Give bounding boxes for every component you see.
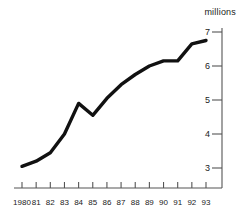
data-series-group [22,41,206,167]
x-axis-tick-label: 87 [117,198,126,207]
y-axis-tick-label: 4 [196,129,210,139]
x-axis-tick-label: 82 [46,198,55,207]
x-axis-tick-label: 91 [173,198,182,207]
y-axis-tick-label: 7 [196,27,210,37]
x-axis-tick-label: 90 [159,198,168,207]
x-axis-tick-label: 81 [32,198,41,207]
data-line [22,41,206,167]
x-axis-tick-label: 88 [131,198,140,207]
y-axis-tick-label: 5 [196,95,210,105]
x-axis-tick-label: 93 [202,198,211,207]
chart-container: millions 34567 1980818283848586878889909… [0,0,242,222]
x-axis-tick-label: 92 [187,198,196,207]
x-axis-tick-label: 1980 [13,198,31,207]
y-axis-tick-label: 3 [196,163,210,173]
x-axis-tick-label: 89 [145,198,154,207]
axis-group [14,28,222,188]
x-axis-tick-label: 85 [88,198,97,207]
x-axis-tick-label: 83 [60,198,69,207]
x-axis-tick-label: 84 [74,198,83,207]
x-axis-tick-label: 86 [102,198,111,207]
y-axis-tick-label: 6 [196,61,210,71]
